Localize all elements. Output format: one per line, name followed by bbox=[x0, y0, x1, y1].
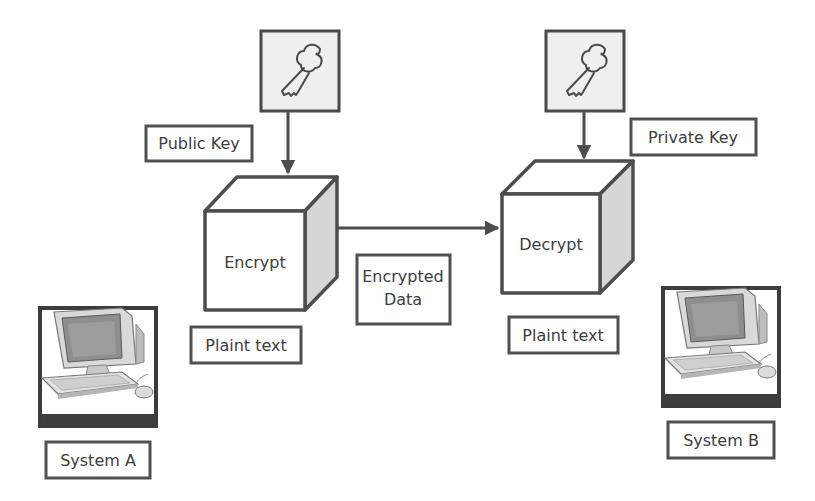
system-a-node bbox=[40, 308, 156, 426]
plaintext-a-label-box: Plaint text bbox=[191, 327, 301, 363]
private-key-node bbox=[546, 31, 624, 111]
system-b-node bbox=[663, 288, 779, 406]
decrypt-cube: Decrypt bbox=[502, 161, 633, 293]
system-a-label-box: System A bbox=[46, 442, 150, 478]
encrypt-cube: Encrypt bbox=[205, 177, 337, 310]
encrypted-data-label-box: Encrypted Data bbox=[357, 255, 450, 324]
encrypted-data-label-line1: Encrypted bbox=[362, 267, 444, 286]
private-key-label-box: Private Key bbox=[631, 119, 756, 155]
system-b-label-box: System B bbox=[668, 422, 774, 458]
plaintext-b-label: Plaint text bbox=[522, 326, 603, 345]
plaintext-b-label-box: Plaint text bbox=[509, 317, 618, 353]
public-key-label: Public Key bbox=[158, 134, 239, 153]
private-key-label: Private Key bbox=[648, 128, 738, 147]
encrypted-data-label-line2: Data bbox=[384, 290, 422, 309]
public-key-label-box: Public Key bbox=[146, 126, 252, 161]
public-key-node bbox=[261, 31, 339, 111]
system-b-label: System B bbox=[683, 431, 759, 450]
decrypt-label: Decrypt bbox=[519, 235, 582, 254]
system-a-label: System A bbox=[60, 451, 136, 470]
encrypt-label: Encrypt bbox=[224, 253, 286, 272]
encryption-diagram: Public Key Encrypt Plaint text Encrypted… bbox=[0, 0, 815, 501]
plaintext-a-label: Plaint text bbox=[205, 336, 286, 355]
